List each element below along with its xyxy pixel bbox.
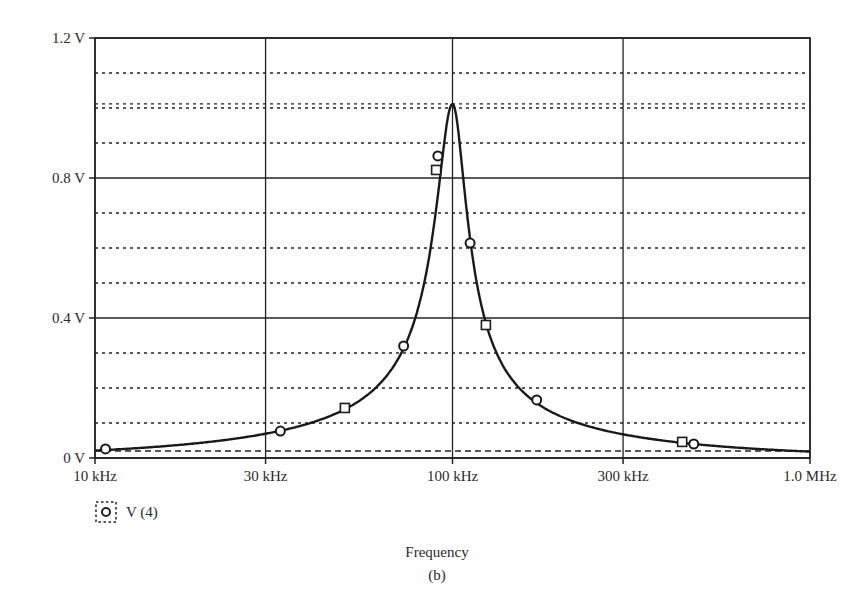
y-tick-label: 0.4 V xyxy=(52,310,85,326)
data-markers xyxy=(101,151,698,453)
circle-marker-icon xyxy=(689,440,698,449)
x-tick-label: 1.0 MHz xyxy=(783,468,837,484)
x-axis-title: Frequency xyxy=(405,544,469,560)
square-marker-icon xyxy=(432,165,441,174)
frequency-response-chart: 0 V0.4 V0.8 V1.2 V 10 kHz30 kHz100 kHz30… xyxy=(0,0,846,593)
y-tick-label: 0 V xyxy=(63,450,85,466)
x-axis: 10 kHz30 kHz100 kHz300 kHz1.0 MHz xyxy=(73,458,837,484)
square-marker-icon xyxy=(481,321,490,330)
x-tick-label: 30 kHz xyxy=(244,468,288,484)
circle-marker-icon xyxy=(399,342,408,351)
legend-label: V (4) xyxy=(126,504,158,521)
y-tick-label: 1.2 V xyxy=(52,30,85,46)
x-tick-label: 100 kHz xyxy=(427,468,479,484)
circle-marker-icon xyxy=(532,395,541,404)
y-axis: 0 V0.4 V0.8 V1.2 V xyxy=(52,30,95,466)
square-marker-icon xyxy=(340,403,349,412)
figure-caption: (b) xyxy=(428,567,446,584)
x-tick-label: 300 kHz xyxy=(597,468,649,484)
x-tick-label: 10 kHz xyxy=(73,468,117,484)
square-marker-icon xyxy=(678,437,687,446)
circle-marker-icon xyxy=(276,427,285,436)
circle-marker-icon xyxy=(466,239,475,248)
y-tick-label: 0.8 V xyxy=(52,170,85,186)
legend-circle-icon xyxy=(102,508,110,516)
circle-marker-icon xyxy=(101,444,110,453)
circle-marker-icon xyxy=(433,151,442,160)
legend: V (4) xyxy=(96,502,158,522)
